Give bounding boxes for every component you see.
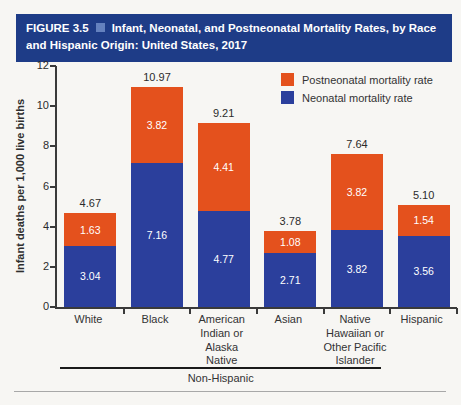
plot-area: 0246810121.633.044.673.827.1610.974.414.…: [55, 66, 457, 309]
bar-segment: 7.16: [131, 163, 183, 307]
bar-segment: 2.71: [264, 253, 316, 307]
segment-value-label: 2.71: [280, 274, 300, 286]
bar-segment: 3.82: [131, 87, 183, 164]
category-label: Black: [122, 313, 189, 368]
bar-total-label: 4.67: [57, 197, 124, 209]
non-hispanic-group-bracket: Non-Hispanic: [60, 367, 381, 384]
bar-segment: 4.41: [198, 123, 250, 212]
segment-value-label: 1.63: [80, 224, 100, 236]
bar-group: 1.633.044.67: [57, 213, 124, 307]
bottom-divider-line: [14, 391, 446, 392]
y-tick-label: 10: [19, 99, 49, 111]
bar-total-label: 9.21: [190, 107, 257, 119]
bar-segment: 3.56: [398, 236, 450, 307]
y-tick-mark: [50, 226, 56, 228]
figure-3-5-page: FIGURE 3.5Infant, Neonatal, and Postneon…: [0, 0, 461, 405]
figure-title-banner: FIGURE 3.5Infant, Neonatal, and Postneon…: [16, 14, 452, 62]
segment-value-label: 3.82: [347, 263, 367, 275]
stacked-bar: 4.414.77: [198, 123, 250, 307]
category-label: White: [55, 313, 122, 368]
bar-segment: 3.82: [331, 230, 383, 307]
bar-total-label: 3.78: [257, 215, 324, 227]
category-label: American Indian or Alaska Native: [188, 313, 255, 368]
y-tick-label: 8: [19, 139, 49, 151]
bar-segment: 1.54: [398, 205, 450, 236]
stacked-bar: 3.827.16: [131, 87, 183, 308]
y-tick-label: 12: [19, 59, 49, 71]
non-hispanic-label: Non-Hispanic: [188, 372, 254, 384]
figure-square-icon: [96, 23, 105, 32]
segment-value-label: 1.54: [413, 214, 433, 226]
bar-group: 3.827.1610.97: [124, 87, 191, 308]
x-axis-category-labels: WhiteBlackAmerican Indian or Alaska Nati…: [55, 313, 455, 368]
y-tick-label: 2: [19, 260, 49, 272]
x-tick-mark: [456, 308, 458, 314]
segment-value-label: 4.41: [213, 161, 233, 173]
stacked-bar: 1.543.56: [398, 205, 450, 307]
segment-value-label: 3.82: [347, 186, 367, 198]
bar-group: 4.414.779.21: [190, 123, 257, 307]
segment-value-label: 7.16: [147, 229, 167, 241]
category-label: Native Hawaiian or Other Pacific Islande…: [322, 313, 389, 368]
y-tick-mark: [50, 65, 56, 67]
segment-value-label: 3.04: [80, 270, 100, 282]
stacked-bar: 3.823.82: [331, 154, 383, 307]
bar-total-label: 7.64: [324, 138, 391, 150]
bar-total-label: 10.97: [124, 71, 191, 83]
segment-value-label: 1.08: [280, 236, 300, 248]
y-tick-mark: [50, 145, 56, 147]
category-label: Hispanic: [388, 313, 455, 368]
figure-number-label: FIGURE 3.5: [26, 22, 89, 34]
stacked-bar: 1.633.04: [64, 213, 116, 307]
bar-group: 1.082.713.78: [257, 231, 324, 307]
bar-segment: 1.08: [264, 231, 316, 253]
bar-segment: 1.63: [64, 213, 116, 246]
bar-group: 1.543.565.10: [390, 205, 457, 307]
y-tick-mark: [50, 306, 56, 308]
y-tick-label: 4: [19, 220, 49, 232]
bar-group: 3.823.827.64: [324, 154, 391, 307]
bar-segment: 4.77: [198, 211, 250, 307]
bar-total-label: 5.10: [390, 189, 457, 201]
y-tick-mark: [50, 266, 56, 268]
y-tick-mark: [50, 186, 56, 188]
segment-value-label: 3.82: [147, 119, 167, 131]
segment-value-label: 4.77: [213, 253, 233, 265]
y-tick-label: 6: [19, 180, 49, 192]
bar-segment: 3.04: [64, 246, 116, 307]
bar-segment: 3.82: [331, 154, 383, 231]
category-label: Asian: [255, 313, 322, 368]
y-tick-label: 0: [19, 300, 49, 312]
segment-value-label: 3.56: [413, 265, 433, 277]
stacked-bar: 1.082.71: [264, 231, 316, 307]
y-tick-mark: [50, 105, 56, 107]
